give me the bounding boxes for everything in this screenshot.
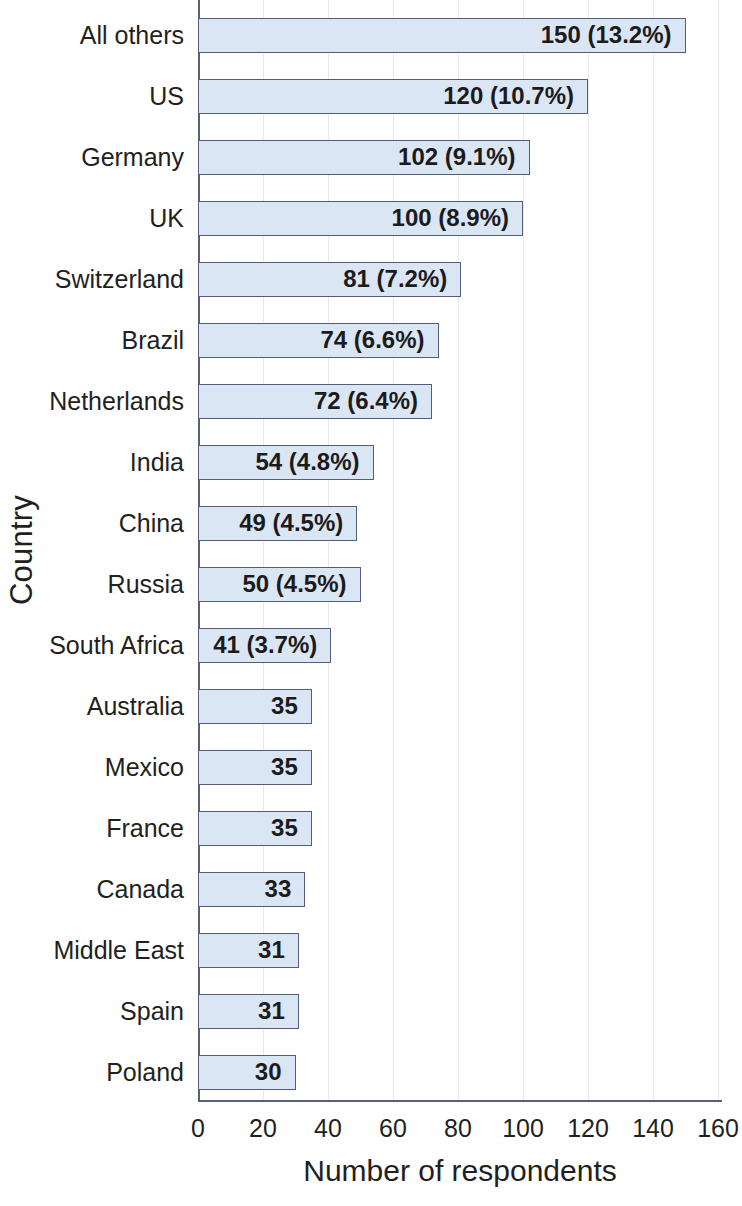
category-label: France	[106, 798, 184, 859]
bar-row: Spain31	[198, 981, 722, 1042]
category-label: UK	[149, 188, 184, 249]
bar-value-label: 35	[198, 689, 298, 724]
bar-value-label: 120 (10.7%)	[198, 79, 574, 114]
category-label: Switzerland	[55, 249, 184, 310]
bar-row: France35	[198, 798, 722, 859]
bar-row: US120 (10.7%)	[198, 66, 722, 127]
category-label: Canada	[96, 859, 184, 920]
bar-value-label: 31	[198, 994, 285, 1029]
bar-value-label: 102 (9.1%)	[198, 140, 516, 175]
bar-value-label: 30	[198, 1055, 282, 1090]
bar-value-label: 100 (8.9%)	[198, 201, 509, 236]
x-tick-label: 40	[314, 1114, 342, 1143]
bar-row: Russia50 (4.5%)	[198, 554, 722, 615]
category-label: US	[149, 66, 184, 127]
x-tick-label: 60	[379, 1114, 407, 1143]
bar-row: Middle East31	[198, 920, 722, 981]
bar-row: UK100 (8.9%)	[198, 188, 722, 249]
bar-value-label: 35	[198, 750, 298, 785]
y-axis-title: Country	[0, 0, 44, 1100]
x-axis-title: Number of respondents	[198, 1154, 722, 1188]
bar-row: Netherlands72 (6.4%)	[198, 371, 722, 432]
bar-row: Australia35	[198, 676, 722, 737]
x-tick-label: 100	[502, 1114, 544, 1143]
bar-row: All others150 (13.2%)	[198, 5, 722, 66]
bar-row: Canada33	[198, 859, 722, 920]
bar-row: South Africa41 (3.7%)	[198, 615, 722, 676]
plot-area: All others150 (13.2%)US120 (10.7%)German…	[198, 0, 722, 1100]
x-tick-label: 80	[444, 1114, 472, 1143]
bar-value-label: 150 (13.2%)	[198, 18, 672, 53]
x-tick-label: 20	[249, 1114, 277, 1143]
category-label: Middle East	[53, 920, 184, 981]
category-label: Russia	[108, 554, 184, 615]
category-label: Poland	[106, 1042, 184, 1103]
bar-value-label: 35	[198, 811, 298, 846]
category-label: India	[130, 432, 184, 493]
x-tick-label: 120	[567, 1114, 609, 1143]
bar-value-label: 49 (4.5%)	[198, 506, 343, 541]
bar-row: Mexico35	[198, 737, 722, 798]
bar-row: Brazil74 (6.6%)	[198, 310, 722, 371]
bar-chart: Country All others150 (13.2%)US120 (10.7…	[0, 0, 742, 1206]
category-label: Germany	[81, 127, 184, 188]
category-label: Netherlands	[49, 371, 184, 432]
category-label: Spain	[120, 981, 184, 1042]
bar-value-label: 54 (4.8%)	[198, 445, 360, 480]
x-tick-label: 0	[191, 1114, 205, 1143]
bar-value-label: 50 (4.5%)	[198, 567, 347, 602]
bar-row: India54 (4.8%)	[198, 432, 722, 493]
bar-value-label: 31	[198, 933, 285, 968]
bar-value-label: 74 (6.6%)	[198, 323, 425, 358]
category-label: Australia	[87, 676, 184, 737]
bar-value-label: 72 (6.4%)	[198, 384, 418, 419]
category-label: All others	[80, 5, 184, 66]
category-label: Brazil	[121, 310, 184, 371]
category-label: China	[119, 493, 184, 554]
x-tick-label: 160	[697, 1114, 739, 1143]
bar-row: Switzerland81 (7.2%)	[198, 249, 722, 310]
category-label: Mexico	[105, 737, 184, 798]
bar-value-label: 81 (7.2%)	[198, 262, 447, 297]
x-tick-label: 140	[632, 1114, 674, 1143]
category-label: South Africa	[49, 615, 184, 676]
bar-value-label: 41 (3.7%)	[198, 628, 317, 663]
bar-row: Germany102 (9.1%)	[198, 127, 722, 188]
y-axis-title-label: Country	[4, 495, 40, 605]
bar-row: China49 (4.5%)	[198, 493, 722, 554]
bar-row: Poland30	[198, 1042, 722, 1103]
bar-value-label: 33	[198, 872, 291, 907]
